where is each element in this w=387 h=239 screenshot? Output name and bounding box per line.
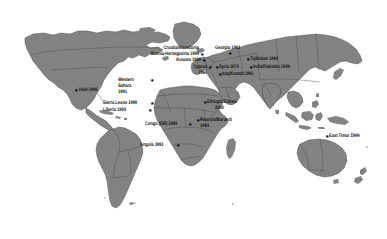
islet-japan [333,68,344,80]
landmass-southeast-asia [287,91,303,108]
marker-angola [176,144,179,147]
marker-india-pakistan [249,66,252,69]
marker-liberia [148,109,151,112]
islet-tasmania [333,179,339,184]
label-india-pakistan: India/Pakistan 1949 [253,65,290,71]
marker-congo-dr [188,123,191,126]
islet-caribbean-puerto-rico [124,118,127,120]
marker-tajikistan [246,58,249,61]
marker-balkans [200,53,203,56]
landmass-south-america [96,127,143,208]
marker-cyprus [208,66,211,69]
label-congo-dr: Congo (DR) 1999 [145,122,177,128]
world-map-graphic [0,0,387,239]
marker-ethiopia-eritrea [203,101,206,104]
islet-philippines [312,100,319,108]
islet-new-zealand-north [360,167,367,175]
label-liberia: Liberia 1993 [103,108,126,114]
islet-new-guinea [327,116,349,125]
label-iraq-kuwait: Iraq/Kuwait 1991 [222,72,253,78]
landmass-india [262,83,281,109]
label-angola: Angola 1991 [140,143,164,149]
islet-east-timor [318,127,325,129]
islet-dot-atlantic-2 [104,197,105,198]
label-cyprus-line2: 1964 [152,71,207,77]
label-east-timor: East Timor 1999 [329,134,359,140]
marker-iraq-kuwait [218,73,221,76]
islet-dot-indian-1 [232,203,234,205]
islet-sumatra [285,112,299,123]
marker-syria [215,66,218,69]
islet-java [299,125,312,130]
label-rwanda-burundi-line2: 1993 [200,124,209,130]
marker-western-sahara [150,79,153,82]
landmass-north-america [25,30,170,110]
marker-georgia [228,52,231,55]
marker-kosovo [202,59,205,62]
islet-borneo [301,111,314,121]
islet-sri-lanka [275,110,279,114]
label-haiti: Haiti 1996 [79,88,98,94]
islet-sulawesi [315,112,323,121]
marker-east-timor [325,135,328,138]
label-western-sahara-line3: 1991 [118,90,127,96]
marker-rwanda-burundi [196,119,199,122]
islet-dot-pacific-1 [366,146,368,148]
islet-falklands [129,202,134,205]
world-map-figure: Haiti 1996 Croatia/Macedonia Bosnia-Herz… [0,0,387,239]
marker-sierra-leone [150,102,153,105]
islet-caribbean-hispaniola [115,116,121,119]
islet-dot-atlantic-1 [134,202,136,204]
islet-taiwan [316,93,319,97]
islet-new-zealand-south [354,176,363,184]
label-ethiopia-eritrea-line2: 2000 [215,106,224,112]
label-tajikistan: Tajikistan 1994 [250,57,278,63]
label-kosovo: Kosovo 1999 [135,58,201,64]
islet-madagascar [226,138,236,159]
marker-haiti [74,89,77,92]
